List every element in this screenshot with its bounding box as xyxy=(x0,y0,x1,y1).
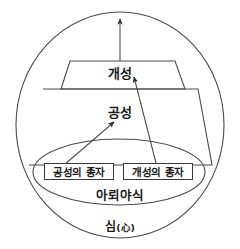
seed-box-gongseong: 공성의 종자 xyxy=(44,163,114,180)
lower-trapezoid-label: 공성 xyxy=(0,106,240,119)
upper-trapezoid-label: 개성 xyxy=(0,67,240,80)
seed-box-gaeseong: 개성의 종자 xyxy=(123,163,193,180)
seed-box-gaeseong-label: 개성의 종자 xyxy=(132,164,184,179)
diagram-canvas: 개성 공성 공성의 종자 개성의 종자 아뢰야식 심(心) xyxy=(0,0,240,249)
alaya-consciousness-label: 아뢰야식 xyxy=(0,190,240,203)
mind-circle-label: 심(心) xyxy=(0,221,240,233)
diagram-graphics xyxy=(0,0,240,249)
seed-box-gongseong-label: 공성의 종자 xyxy=(53,164,105,179)
arrow-seed-to-gaeseong xyxy=(134,77,156,163)
mind-circle-label-korean: 심 xyxy=(105,220,116,234)
arrow-seed-to-gongseong xyxy=(64,122,114,165)
lower-trapezoid xyxy=(29,89,212,165)
mind-circle-label-hanja: (心) xyxy=(116,222,135,233)
